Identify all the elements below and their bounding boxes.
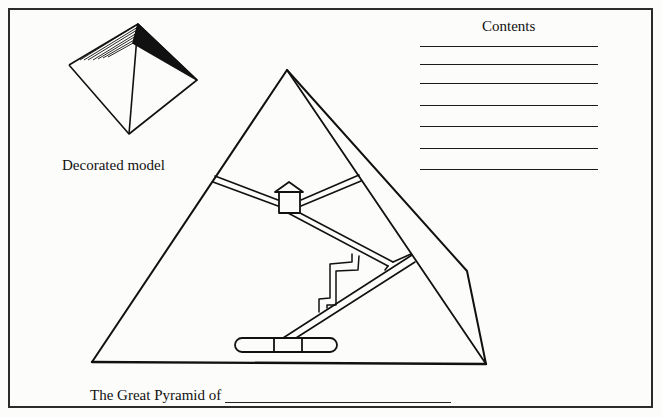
great-pyramid-cross-section	[92, 70, 486, 364]
contents-line-5[interactable]	[420, 126, 598, 127]
caption-blank-field[interactable]	[225, 388, 451, 403]
stepped-passage	[319, 254, 359, 312]
contents-heading: Contents	[482, 19, 535, 34]
contents-line-3[interactable]	[420, 83, 598, 84]
contents-line-6[interactable]	[420, 148, 598, 149]
decorated-model-pyramid-icon	[69, 24, 197, 134]
caption-prefix: The Great Pyramid of	[90, 387, 221, 404]
worksheet-page: Decorated model Contents The Great Pyram…	[0, 0, 662, 417]
contents-line-7[interactable]	[420, 169, 598, 170]
subterranean-chamber-icon	[235, 338, 337, 352]
contents-line-2[interactable]	[420, 64, 598, 65]
descending-passage	[283, 255, 415, 338]
decorated-model-label: Decorated model	[62, 158, 165, 173]
air-shaft-left	[213, 176, 278, 206]
air-shaft-right	[301, 175, 361, 206]
illustrations-layer	[0, 0, 662, 417]
caption-row: The Great Pyramid of	[90, 387, 451, 404]
kings-chamber-icon	[275, 182, 303, 213]
grand-gallery	[288, 213, 393, 266]
contents-line-4[interactable]	[420, 105, 598, 106]
contents-line-1[interactable]	[420, 46, 598, 47]
